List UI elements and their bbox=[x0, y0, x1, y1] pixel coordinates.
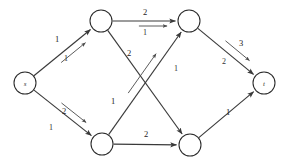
node-top-right[interactable] bbox=[178, 10, 200, 32]
node-top-left[interactable] bbox=[90, 10, 112, 32]
edge-top-right-to-t bbox=[198, 28, 254, 74]
edge-bottom-left-to-top-right-capacity-label: 1 bbox=[111, 96, 115, 106]
edge-s-to-bottom-left-flow-label: 1 bbox=[49, 123, 53, 132]
edge-bottom-left-to-top-right-flow-label: 1 bbox=[174, 64, 178, 73]
edge-top-left-to-top-right-capacity-label: 2 bbox=[143, 7, 147, 17]
edge-bottom-left-to-bottom-right bbox=[113, 144, 176, 145]
edge-top-left-to-bottom-right-capacity-label: 2 bbox=[127, 48, 131, 58]
edge-s-to-top-left-capacity-label: 1 bbox=[55, 34, 59, 44]
edge-s-to-bottom-left-capacity-label: 2 bbox=[62, 106, 66, 116]
node-t[interactable]: t bbox=[253, 72, 275, 94]
flow-arrow-layer bbox=[61, 26, 249, 122]
edge-bottom-right-to-t-capacity-label: 1 bbox=[226, 107, 230, 117]
edge-s-to-top-left-flow-label: 1 bbox=[64, 54, 68, 63]
node-bottom-right[interactable] bbox=[179, 134, 201, 156]
edge-top-right-to-t-flow-arrow bbox=[225, 41, 249, 61]
node-s[interactable]: s bbox=[14, 72, 36, 94]
node-bottom-right-circle bbox=[179, 134, 201, 156]
edge-s-to-top-left bbox=[34, 30, 91, 76]
label-layer: 1121212112321 bbox=[49, 7, 243, 139]
node-top-right-circle bbox=[178, 10, 200, 32]
flow-network-diagram: st 1121212112321 bbox=[0, 0, 288, 165]
edge-top-left-to-top-right-flow-label: 1 bbox=[143, 28, 147, 37]
node-top-left-circle bbox=[90, 10, 112, 32]
node-bottom-left-circle bbox=[91, 133, 113, 155]
node-bottom-left[interactable] bbox=[91, 133, 113, 155]
node-s-label: s bbox=[24, 80, 27, 88]
edge-top-right-to-t-flow-label: 2 bbox=[222, 57, 226, 66]
edge-top-right-to-t-capacity-label: 3 bbox=[239, 38, 243, 48]
edge-bottom-left-to-bottom-right-capacity-label: 2 bbox=[144, 129, 148, 139]
edge-layer bbox=[34, 21, 254, 145]
